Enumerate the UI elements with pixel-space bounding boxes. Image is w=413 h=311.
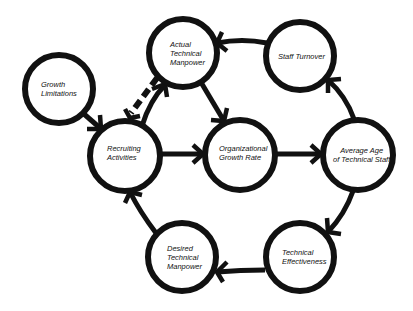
label-average-age-of-technical-staff: Average Age of Technical Staff bbox=[333, 146, 390, 164]
edge-average-age-to-staff-turnover bbox=[328, 79, 354, 119]
label-line: Organizational bbox=[219, 144, 267, 153]
label-line: Activities bbox=[107, 153, 141, 162]
label-line: Limitations bbox=[41, 89, 77, 98]
label-staff-turnover: Staff Turnover bbox=[278, 52, 325, 61]
label-desired-technical-manpower: Desired Technical Manpower bbox=[167, 244, 202, 271]
label-recruiting-activities: Recruiting Activities bbox=[107, 144, 141, 162]
label-line: Actual bbox=[170, 40, 205, 49]
label-line: Growth bbox=[41, 80, 77, 89]
label-line: Staff Turnover bbox=[278, 52, 325, 61]
edge-desired-manpower-to-recruiting bbox=[125, 192, 156, 233]
edge-growth-limitations-to-recruiting bbox=[84, 114, 101, 129]
edge-recruiting-to-org-growth bbox=[160, 145, 203, 163]
label-line: Technical bbox=[282, 248, 327, 257]
edge-actual-manpower-to-org-growth bbox=[202, 84, 227, 121]
label-line: of Technical Staff bbox=[333, 155, 390, 164]
label-line: Growth Rate bbox=[219, 153, 267, 162]
label-line: Manpower bbox=[170, 58, 205, 67]
label-line: Technical bbox=[167, 253, 202, 262]
label-line: Effectiveness bbox=[282, 257, 327, 266]
label-line: Technical bbox=[170, 49, 205, 58]
label-organizational-growth-rate: Organizational Growth Rate bbox=[219, 144, 267, 162]
label-technical-effectiveness: Technical Effectiveness bbox=[282, 248, 327, 266]
edge-staff-turnover-to-actual-manpower bbox=[217, 32, 267, 51]
edge-org-growth-to-average-age bbox=[275, 145, 321, 163]
label-line: Manpower bbox=[167, 262, 202, 271]
edge-average-age-to-tech-effectiveness bbox=[327, 191, 353, 234]
label-actual-technical-manpower: Actual Technical Manpower bbox=[170, 40, 205, 67]
edge-tech-effectiveness-to-desired-manpower bbox=[217, 262, 265, 282]
label-line: Recruiting bbox=[107, 144, 141, 153]
label-line: Average Age bbox=[333, 146, 390, 155]
label-line: Desired bbox=[167, 244, 202, 253]
label-growth-limitations: Growth Limitations bbox=[41, 80, 77, 98]
